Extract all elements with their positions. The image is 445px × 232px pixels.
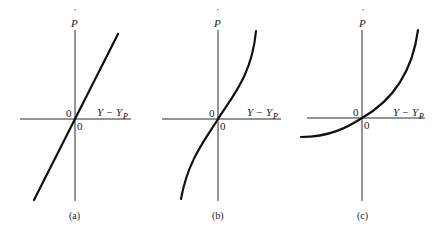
origin-label-right: 0	[77, 120, 83, 132]
x-axis-label-subscript: P	[418, 112, 424, 121]
panel-b: P ˙ Y − Y P 0 0 (b)	[162, 6, 281, 222]
x-axis-label: Y − Y	[393, 106, 420, 118]
x-axis-label: Y − Y	[97, 106, 124, 118]
origin-label-left: 0	[353, 106, 359, 118]
panel-c: P ˙ Y − Y P 0 0 (c)	[301, 6, 425, 222]
origin-label-left: 0	[66, 107, 72, 119]
panel-a: P ˙ Y − Y P 0 0 (a)	[20, 6, 131, 222]
x-axis-label-subscript: P	[122, 112, 128, 121]
phillips-curve-figure: P ˙ Y − Y P 0 0 (a) P ˙ Y − Y P 0 0 (b) …	[0, 0, 445, 232]
origin-label-right: 0	[364, 119, 370, 131]
y-axis-label: P	[358, 17, 366, 29]
caption-b: (b)	[212, 210, 224, 222]
convex-curve	[301, 30, 418, 137]
y-axis-label-dot: ˙	[216, 6, 220, 18]
x-axis-label-subscript: P	[272, 112, 278, 121]
caption-c: (c)	[357, 210, 368, 222]
origin-label-left: 0	[209, 107, 215, 119]
origin-label-right: 0	[220, 120, 226, 132]
x-axis-label: Y − Y	[247, 106, 274, 118]
y-axis-label-dot: ˙	[73, 6, 77, 18]
y-axis-label: P	[213, 17, 221, 29]
y-axis-label: P	[70, 17, 78, 29]
y-axis-label-dot: ˙	[361, 6, 365, 18]
caption-a: (a)	[69, 210, 80, 222]
